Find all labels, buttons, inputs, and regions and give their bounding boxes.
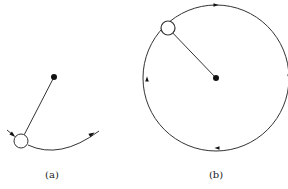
rod-a (24, 77, 54, 135)
arc-path-a (28, 131, 99, 150)
bob-a (14, 134, 28, 148)
arrow-icon-orbit-2 (215, 146, 220, 150)
pendulum-diagram (0, 0, 288, 189)
arrow-icon-orbit-0 (214, 3, 219, 7)
bob-b (161, 21, 175, 35)
pivot-dot-a (51, 74, 57, 80)
panel-b-label: (b) (209, 169, 223, 180)
panel-a-label: (a) (45, 169, 59, 180)
arrow-icon-orbit-3 (145, 77, 149, 82)
arrow-icon-orbit-1 (287, 75, 288, 80)
panel-a (7, 74, 99, 150)
panel-b (143, 3, 288, 151)
pivot-dot-b (213, 75, 219, 81)
rod-b (173, 33, 216, 78)
